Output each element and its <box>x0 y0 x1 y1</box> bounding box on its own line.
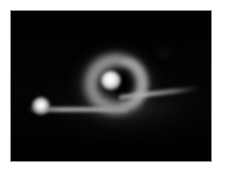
figure-caption: Ring-shaped nebula with bright knot and … <box>0 0 1 1</box>
image-field <box>11 11 211 161</box>
filament-group <box>11 11 211 161</box>
point-source <box>32 97 50 115</box>
figure-root: Ring-shaped nebula with bright knot and … <box>0 0 225 176</box>
